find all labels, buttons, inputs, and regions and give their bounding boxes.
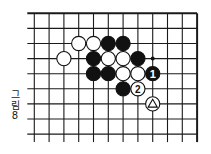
black-stone	[116, 82, 130, 96]
caption-number: 8	[7, 111, 23, 122]
white-stone	[146, 97, 160, 111]
move-number: 2	[135, 84, 141, 95]
figure-caption: 그 림 8	[7, 90, 23, 122]
white-stone	[116, 67, 130, 81]
black-stone	[101, 67, 115, 81]
white-stone	[57, 52, 71, 66]
board-markers	[151, 57, 155, 61]
black-stone	[101, 36, 115, 50]
black-stone: 1	[146, 67, 160, 81]
black-stone	[86, 52, 100, 66]
white-stone	[116, 52, 130, 66]
caption-char-1: 그	[7, 90, 23, 101]
move-number: 1	[150, 68, 156, 80]
dot-marker	[151, 57, 155, 61]
black-stone	[86, 67, 100, 81]
go-board-diagram: 12	[0, 0, 211, 154]
white-stone	[101, 52, 115, 66]
white-stone	[86, 36, 100, 50]
black-stone	[116, 36, 130, 50]
white-stone	[131, 67, 145, 81]
black-stone	[131, 52, 145, 66]
white-stone: 2	[131, 82, 145, 96]
white-stone	[72, 36, 86, 50]
